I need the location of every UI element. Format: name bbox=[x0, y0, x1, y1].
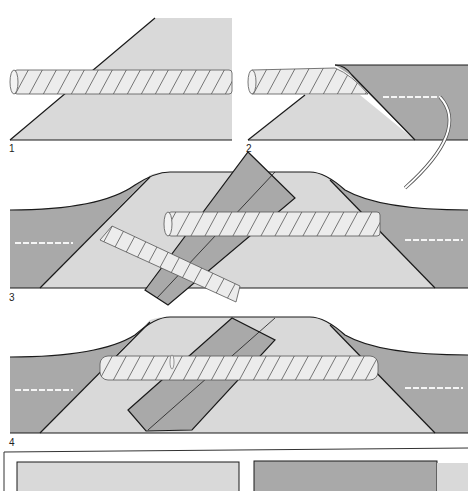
next-figure-partial bbox=[4, 448, 468, 491]
step-label-3: 3 bbox=[9, 292, 15, 303]
piping-diagram: 1 2 3 bbox=[0, 0, 468, 491]
step-label-1: 1 bbox=[9, 143, 15, 154]
step-3-illustration: 3 bbox=[9, 152, 468, 305]
step-1-illustration: 1 bbox=[9, 18, 232, 154]
cord-step-1 bbox=[10, 70, 232, 94]
step-2-illustration: 2 bbox=[246, 65, 468, 188]
cord-step-4 bbox=[100, 355, 378, 380]
step-4-illustration: 4 bbox=[9, 317, 468, 448]
step-label-4: 4 bbox=[9, 437, 15, 448]
